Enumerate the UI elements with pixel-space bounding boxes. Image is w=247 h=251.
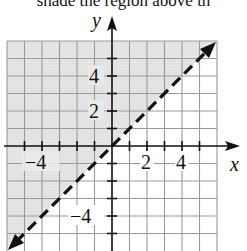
y-tick-label-2: 2 [89,100,99,122]
coordinate-graph: y x −4 2 4 4 2 −4 [0,0,247,251]
x-tick-label-neg4: −4 [25,151,46,173]
x-tick-label-2: 2 [141,151,151,173]
x-axis-label: x [229,153,239,175]
y-axis-label: y [90,9,101,32]
y-tick-label-4: 4 [89,65,99,87]
y-tick-label-neg4: −4 [70,205,91,227]
x-tick-label-4: 4 [176,151,186,173]
